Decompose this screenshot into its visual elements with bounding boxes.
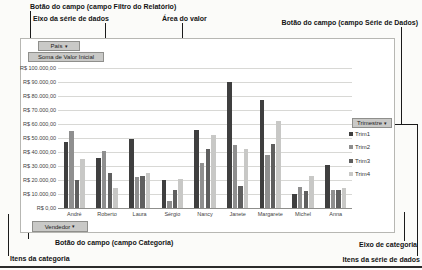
gridline: [58, 68, 352, 69]
value-axis-tick-label: R$ 70.000,00: [14, 107, 56, 114]
bar-trim2-michel: [298, 187, 303, 208]
category-field-label: Vendedor: [45, 224, 71, 230]
bar-trim1-janete: [227, 82, 232, 208]
bar-trim2-roberto: [102, 151, 107, 208]
bar-trim4-andré: [80, 159, 85, 208]
series-field-label: Trimestre: [357, 120, 382, 126]
legend-swatch-icon: [349, 159, 353, 163]
bar-trim3-janete: [238, 186, 243, 208]
bar-trim4-sérgio: [178, 179, 183, 208]
bar-trim3-margarete: [271, 144, 276, 208]
page-rule: [0, 266, 422, 268]
legend-item-trim2: Trim2: [349, 144, 370, 150]
connector-line: [8, 214, 9, 256]
bar-trim3-michel: [304, 191, 309, 208]
bar-trim3-laura: [140, 176, 145, 208]
legend-swatch-icon: [349, 172, 353, 176]
bar-trim2-janete: [233, 145, 238, 208]
category-item-label: Roberto: [91, 211, 124, 218]
plot-area: [58, 68, 352, 208]
gridline: [58, 82, 352, 83]
category-field-button[interactable]: Vendedor ▾: [32, 221, 88, 232]
bar-trim3-anna: [336, 190, 341, 208]
legend-label: Trim2: [355, 144, 370, 150]
annotation-category-items: Itens da categoria: [10, 255, 70, 263]
bar-trim2-andré: [69, 131, 74, 208]
category-item-label: Nancy: [189, 211, 222, 218]
value-axis-tick-label: R$ 60.000,00: [14, 121, 56, 128]
gridline: [58, 124, 352, 125]
value-axis-tick-label: R$ 40.000,00: [14, 149, 56, 156]
report-filter-field-label: País: [50, 43, 62, 49]
value-axis-tick-label: R$ 20.000,00: [14, 177, 56, 184]
annotation-category-axis: Eixo de categoria: [359, 241, 417, 249]
legend-swatch-icon: [349, 145, 353, 149]
gridline: [58, 96, 352, 97]
value-axis-tick-label: R$ 0,00: [14, 205, 56, 212]
legend-swatch-icon: [349, 132, 353, 136]
bar-trim1-michel: [292, 194, 297, 208]
bar-trim3-roberto: [108, 173, 113, 208]
category-item-label: Laura: [123, 211, 156, 218]
category-item-label: Sérgio: [156, 211, 189, 218]
bar-trim1-nancy: [194, 130, 199, 208]
series-field-button[interactable]: Trimestre ▾: [352, 118, 392, 128]
connector-line: [392, 124, 418, 125]
value-axis-tick-label: R$ 10.000,00: [14, 191, 56, 198]
legend-item-trim4: Trim4: [349, 171, 370, 177]
connector-line: [404, 212, 405, 241]
category-item-label: Michel: [287, 211, 320, 218]
bar-trim4-margarete: [276, 121, 281, 208]
value-axis-tick-label: R$ 80.000,00: [14, 93, 56, 100]
bar-trim4-anna: [342, 188, 347, 208]
category-item-label: Margarete: [254, 211, 287, 218]
values-field-label: Soma de Valor Inicial: [38, 54, 94, 60]
value-axis-tick-label: R$ 30.000,00: [14, 163, 56, 170]
bar-trim4-roberto: [113, 188, 118, 208]
annotation-filter-field-button: Botão do campo (campo Filtro do Relatóri…: [30, 3, 176, 11]
legend-label: Trim3: [355, 158, 370, 164]
bar-trim4-nancy: [211, 135, 216, 208]
category-item-label: Janete: [221, 211, 254, 218]
annotation-category-field-button: Botão do campo (campo Categoria): [55, 239, 173, 247]
bar-trim3-nancy: [206, 149, 211, 208]
bar-trim3-andré: [75, 180, 80, 208]
value-axis-tick-label: R$ 90.000,00: [14, 79, 56, 86]
bar-trim4-janete: [244, 149, 249, 208]
gridline: [58, 138, 352, 139]
bar-trim3-sérgio: [173, 190, 178, 208]
dropdown-arrow-icon: ▾: [384, 121, 387, 126]
legend-label: Trim1: [355, 131, 370, 137]
bar-trim2-laura: [135, 177, 140, 208]
category-axis-line: [58, 208, 352, 209]
annotation-series-field-button: Botão do campo (campo Série de Dados): [281, 19, 418, 27]
legend-item-trim3: Trim3: [349, 158, 370, 164]
category-item-label: Anna: [319, 211, 352, 218]
value-axis-tick-label: R$ 100.000,00: [14, 65, 56, 72]
legend-item-trim1: Trim1: [349, 131, 370, 137]
values-field-button[interactable]: Soma de Valor Inicial: [28, 52, 104, 62]
bar-trim4-michel: [309, 176, 314, 208]
category-item-label: André: [58, 211, 91, 218]
bar-trim1-andré: [64, 142, 69, 208]
dropdown-arrow-icon: ▾: [65, 44, 68, 49]
bar-trim1-roberto: [96, 158, 101, 208]
annotated-pivotchart-figure: Botão do campo (campo Filtro do Relatóri…: [0, 0, 422, 270]
bar-trim1-anna: [325, 165, 330, 208]
dropdown-arrow-icon: ▾: [72, 224, 75, 229]
bar-trim1-laura: [129, 139, 134, 208]
bar-trim2-nancy: [200, 163, 205, 208]
legend-label: Trim4: [355, 171, 370, 177]
bar-trim2-margarete: [265, 155, 270, 208]
connector-line: [401, 27, 402, 124]
annotation-value-area: Área do valor: [162, 15, 207, 23]
bar-trim1-sérgio: [162, 180, 167, 208]
report-filter-field-button[interactable]: País ▾: [38, 41, 80, 51]
connector-line: [417, 124, 418, 256]
bar-trim2-sérgio: [167, 201, 172, 208]
annotation-series-axis: Eixo da série de dados: [33, 15, 109, 23]
gridline: [58, 110, 352, 111]
bar-trim2-anna: [331, 190, 336, 208]
value-axis-tick-label: R$ 50.000,00: [14, 135, 56, 142]
annotation-series-items: Itens da série de dados: [343, 256, 420, 264]
